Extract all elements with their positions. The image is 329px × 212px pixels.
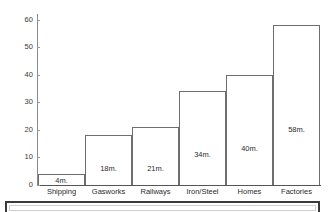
bar: 18m. (85, 135, 132, 185)
bar-chart: 0102030405060 4m.18m.21m.34m.40m.58m. Sh… (0, 0, 329, 212)
x-axis-category-label: Iron/Steel (179, 186, 226, 198)
y-axis-tick-label: 20 (9, 126, 33, 134)
y-axis-tick-mark (37, 20, 40, 21)
y-axis-tick-label: 60 (9, 16, 33, 24)
bar-value-label: 4m. (39, 176, 84, 185)
x-axis-category-label: Factories (273, 186, 320, 198)
y-axis-tick-mark (37, 157, 40, 158)
x-axis-category-labels: ShippingGasworksRailwaysIron/SteelHomesF… (38, 186, 320, 200)
x-axis-category-label: Railways (132, 186, 179, 198)
x-axis-category-label: Shipping (38, 186, 85, 198)
bar-value-label: 21m. (133, 164, 178, 173)
y-axis-tick-mark (37, 185, 40, 186)
y-axis-tick-labels: 0102030405060 (0, 0, 33, 212)
bar-value-label: 40m. (227, 144, 272, 153)
bar: 34m. (179, 91, 226, 185)
y-axis-tick-label: 30 (9, 98, 33, 106)
bar-value-label: 58m. (274, 125, 319, 134)
bar: 4m. (38, 174, 85, 185)
caption-frame (5, 201, 320, 212)
x-axis-category-label: Gasworks (85, 186, 132, 198)
bar: 40m. (226, 75, 273, 185)
bar: 58m. (273, 25, 320, 185)
y-axis-tick-mark (37, 75, 40, 76)
y-axis-tick-label: 10 (9, 153, 33, 161)
caption-frame-inner-border (9, 205, 316, 211)
y-axis-tick-mark (37, 130, 40, 131)
plot-area: 4m.18m.21m.34m.40m.58m. (38, 14, 320, 185)
bar: 21m. (132, 127, 179, 185)
y-axis-tick-mark (37, 47, 40, 48)
y-axis-tick-label: 0 (9, 181, 33, 189)
y-axis-tick-label: 50 (9, 43, 33, 51)
bar-value-label: 18m. (86, 164, 131, 173)
x-axis-category-label: Homes (226, 186, 273, 198)
bar-value-label: 34m. (180, 150, 225, 159)
y-axis-tick-label: 40 (9, 71, 33, 79)
y-axis-tick-mark (37, 102, 40, 103)
